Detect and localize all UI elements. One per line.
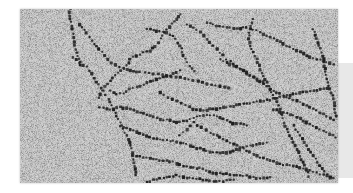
nucleosome-bead (205, 150, 208, 152)
nucleosome-bead (114, 74, 116, 76)
nucleosome-bead (178, 120, 181, 123)
nucleosome-bead (272, 108, 275, 111)
nucleosome-bead (142, 112, 145, 115)
nucleosome-bead (139, 54, 141, 56)
nucleosome-bead (106, 58, 109, 61)
nucleosome-bead (209, 114, 211, 116)
nucleosome-bead (262, 142, 264, 145)
nucleosome-bead (243, 147, 245, 149)
nucleosome-bead (262, 83, 265, 85)
nucleosome-bead (145, 157, 147, 159)
nucleosome-bead (195, 147, 198, 150)
nucleosome-bead (148, 136, 151, 139)
nucleosome-bead (182, 120, 185, 123)
nucleosome-bead (322, 57, 325, 61)
nucleosome-bead (69, 18, 72, 20)
nucleosome-bead (202, 167, 205, 170)
nucleosome-bead (259, 157, 261, 159)
nucleosome-bead (283, 122, 285, 125)
nucleosome-bead (222, 106, 225, 110)
nucleosome-bead (285, 45, 288, 47)
nucleosome-bead (317, 44, 320, 47)
nucleosome-bead (215, 25, 218, 28)
nucleosome-bead (332, 177, 334, 180)
nucleosome-bead (297, 131, 299, 133)
nucleosome-bead (245, 72, 248, 75)
nucleosome-bead (236, 27, 239, 30)
nucleosome-bead (252, 144, 255, 147)
nucleosome-bead (302, 91, 305, 94)
nucleosome-bead (69, 9, 72, 10)
nucleosome-bead (114, 63, 117, 67)
nucleosome-bead (218, 135, 221, 138)
nucleosome-bead (289, 94, 292, 97)
nucleosome-bead (158, 77, 161, 79)
nucleosome-bead (302, 52, 305, 56)
nucleosome-bead (221, 117, 224, 120)
nucleosome-bead (177, 42, 179, 45)
nucleosome-bead (175, 174, 178, 177)
nucleosome-bead (175, 140, 178, 143)
nucleosome-bead (286, 128, 289, 131)
nucleosome-bead (172, 35, 174, 37)
nucleosome-bead (298, 91, 301, 95)
nucleosome-bead (215, 180, 218, 183)
nucleosome-bead (282, 117, 284, 119)
nucleosome-bead (319, 88, 322, 91)
nucleosome-bead (152, 29, 154, 31)
nucleosome-bead (277, 104, 280, 106)
nucleosome-bead (302, 103, 305, 106)
nucleosome-bead (192, 121, 195, 123)
nucleosome-bead (307, 148, 310, 151)
nucleosome-bead (132, 158, 134, 160)
nucleosome-bead (132, 87, 134, 89)
nucleosome-bead (186, 24, 188, 26)
nucleosome-bead (152, 178, 155, 180)
nucleosome-bead (239, 174, 242, 176)
nucleosome-bead (292, 165, 295, 168)
nucleosome-bead (333, 101, 336, 104)
nucleosome-bead (128, 141, 131, 144)
nucleosome-bead (275, 108, 278, 111)
nucleosome-bead (70, 21, 72, 23)
nucleosome-bead (211, 44, 214, 46)
nucleosome-bead (222, 138, 224, 140)
nucleosome-bead (209, 22, 211, 24)
nucleosome-bead (248, 175, 251, 178)
nucleosome-bead (294, 129, 296, 131)
nucleosome-bead (261, 72, 263, 75)
nucleosome-bead (312, 57, 314, 59)
nucleosome-bead (322, 130, 325, 132)
nucleosome-bead (325, 131, 327, 133)
nucleosome-bead (143, 84, 145, 86)
nucleosome-bead (166, 118, 168, 120)
nucleosome-bead (131, 154, 134, 157)
nucleosome-bead (214, 84, 216, 86)
nucleosome-bead (189, 118, 191, 120)
nucleosome-bead (95, 45, 98, 47)
nucleosome-bead (191, 108, 194, 111)
nucleosome-bead (119, 125, 121, 127)
nucleosome-bead (307, 175, 309, 178)
nucleosome-bead (200, 125, 203, 129)
nucleosome-bead (202, 114, 205, 117)
nucleosome-bead (248, 150, 251, 153)
nucleosome-bead (142, 51, 145, 53)
nucleosome-bead (115, 112, 117, 114)
nucleosome-bead (175, 71, 178, 74)
nucleosome-bead (289, 164, 291, 166)
nucleosome-bead (175, 18, 178, 21)
nucleosome-bead (282, 111, 285, 114)
nucleosome-bead (269, 88, 272, 91)
nucleosome-bead (149, 157, 152, 160)
nucleosome-bead (333, 108, 336, 111)
nucleosome-bead (148, 180, 151, 183)
nucleosome-bead (157, 41, 160, 44)
nucleosome-bead (258, 81, 261, 83)
nucleosome-bead (155, 158, 158, 160)
nucleosome-bead (226, 26, 228, 29)
nucleosome-bead (202, 109, 204, 111)
nucleosome-bead (162, 119, 164, 121)
nucleosome-bead (295, 93, 297, 96)
nucleosome-bead (256, 100, 258, 102)
